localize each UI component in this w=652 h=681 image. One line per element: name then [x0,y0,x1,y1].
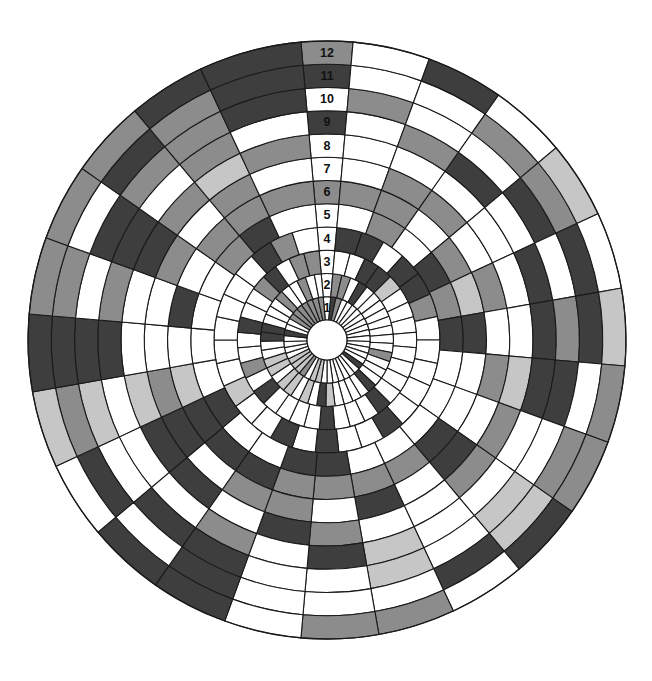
ring-12-cell [599,288,626,366]
ring-label-11: 11 [320,69,333,83]
ring-9-cell [307,543,367,569]
center-hub [307,320,347,360]
ring-7-cell [484,308,510,356]
ring-8-cell [309,520,363,546]
ring-label-12: 12 [320,46,334,60]
ring-7-cell [144,324,170,372]
ring-label-2: 2 [324,278,331,292]
ring-3-cell [237,332,261,348]
ring-6-cell [461,312,486,354]
ring-12-cell [301,612,379,639]
ring-label-6: 6 [324,185,331,199]
ring-6-cell [167,326,192,368]
ring-8-cell [507,304,533,358]
ring-9-cell [530,300,556,360]
ring-label-10: 10 [320,92,334,106]
ring-5-cell [315,451,351,476]
ring-label-7: 7 [324,162,331,176]
ring-label-3: 3 [324,255,331,269]
ring-7-cell [311,497,359,523]
ring-12-cell [28,314,55,392]
ring-11-cell [303,589,375,616]
ring-11-cell [51,316,78,388]
ring-label-1: 1 [324,301,331,315]
ring-10-cell [74,318,101,384]
ring-label-5: 5 [324,208,331,222]
ring-11-cell [576,292,603,364]
ring-4-cell [415,317,440,340]
ring-10-cell [305,566,371,593]
ring-5-cell [438,316,463,352]
ring-label-8: 8 [324,139,331,153]
ring-4-cell [214,340,239,363]
ring-8-cell [121,322,147,376]
ring-3-cell [319,406,335,430]
ring-9-cell [98,320,124,380]
ring-6-cell [313,474,355,499]
ring-3-cell [393,332,417,348]
ring-4-cell [315,429,339,453]
ring-label-4: 4 [324,232,331,246]
ring-10-cell [553,296,580,362]
ring-label-9: 9 [324,115,331,129]
ring-5-cell [191,328,216,364]
concentric-ring-wheel: 123456789101112 [0,0,652,681]
